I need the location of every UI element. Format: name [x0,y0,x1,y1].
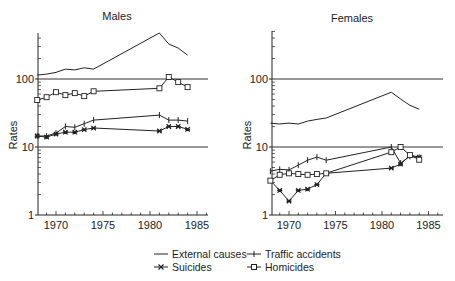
square-marker [44,95,49,100]
y-tick-label: 10 [22,141,34,153]
females-panel: Females Rates 1101001970197519801985 [241,12,443,231]
x-tick-label: 1985 [416,219,440,231]
x-tick-label: 1985 [185,219,209,231]
y-tick-label: 100 [16,73,34,85]
legend-item-external-causes: External causes [153,248,247,260]
legend-line-square-icon [246,263,262,271]
females-y-axis-label: Rates [241,120,253,149]
star-marker [296,188,301,192]
series-traffic-accidents [37,112,187,139]
star-marker [185,127,190,131]
star-marker [277,188,282,192]
legend-label: Homicides [265,261,314,273]
legend-line-star-icon [153,263,169,271]
chart-canvas: Males Rates 1101001970197519801985 Femal… [0,0,455,281]
females-plot-area [268,92,422,203]
x-tick-label: 1975 [323,219,347,231]
males-panel: Males Rates 1101001970197519801985 [7,10,209,231]
star-marker [305,187,310,191]
square-marker [296,172,301,177]
legend-line-plus-icon [246,250,262,258]
star-marker [91,126,96,130]
square-marker [287,171,292,176]
square-marker [277,172,282,177]
females-axes: 1101001970197519801985 [250,31,443,231]
square-marker [54,90,59,95]
chart-figure: Males Rates 1101001970197519801985 Femal… [0,0,455,281]
legend-line-plain-icon [153,250,169,258]
square-marker [72,91,77,96]
square-marker [407,153,412,158]
x-tick-label: 1980 [370,219,394,231]
males-plot-area [35,33,190,139]
series-suicides [35,124,190,139]
square-marker [157,86,162,91]
males-title: Males [102,10,132,22]
square-marker [268,178,273,183]
x-tick-label: 1980 [138,219,162,231]
legend-item-homicides: Homicides [246,261,314,273]
legend-label: Suicides [172,261,212,273]
star-marker [287,199,292,203]
males-y-axis-label: Rates [7,120,19,149]
square-marker [398,145,403,150]
x-tick-label: 1970 [44,219,68,231]
y-tick-label: 1 [28,209,34,221]
legend-label: External causes [172,248,247,260]
square-marker [389,150,394,155]
legend-item-traffic-accidents: Traffic accidents [246,248,341,260]
square-marker [166,75,171,80]
females-title: Females [331,12,374,24]
star-marker [72,130,77,134]
series-external-causes [37,33,187,75]
star-marker [82,127,87,131]
square-marker [314,172,319,177]
square-marker [305,172,310,177]
square-marker [35,98,40,103]
square-marker [63,93,68,98]
y-tick-label: 1 [262,209,268,221]
x-tick-label: 1970 [277,219,301,231]
males-axes: 1101001970197519801985 [16,33,210,231]
y-tick-label: 100 [250,73,268,85]
star-marker [63,130,68,134]
star-marker [166,124,171,128]
star-marker [314,182,319,186]
chart-legend: External causes Traffic accidents Suicid… [0,248,455,278]
legend-item-suicides: Suicides [153,261,212,273]
series-external-causes [270,92,419,124]
square-marker [91,89,96,94]
square-marker [417,157,422,162]
square-marker [185,85,190,90]
square-marker [82,94,87,99]
square-marker [324,171,329,176]
x-tick-label: 1975 [91,219,115,231]
square-marker [176,80,181,85]
star-marker [176,124,181,128]
y-tick-label: 10 [256,141,268,153]
star-marker [157,129,162,133]
legend-label: Traffic accidents [265,248,341,260]
star-marker [389,166,394,170]
